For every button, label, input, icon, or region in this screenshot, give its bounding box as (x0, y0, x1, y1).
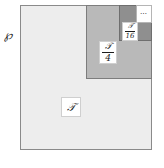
label-t4-denominator: 4 (105, 54, 111, 63)
label-chip-t-over-4: 𝒯 4 (99, 41, 117, 64)
label-chip-t: 𝒯 (61, 97, 81, 117)
label-chip-t-over-16: 𝒯 16 (122, 22, 138, 41)
label-t16-numerator: 𝒯 (128, 23, 133, 30)
label-t16-denominator: 16 (126, 33, 135, 40)
label-outer-p: ℘ (4, 28, 12, 42)
label-t-numerator: 𝒯 (67, 102, 75, 113)
label-t4-numerator: 𝒯 (105, 42, 112, 51)
figure-canvas: ⋯ 𝒯 𝒯 4 𝒯 16 ℘ (0, 0, 164, 168)
ellipsis-icon: ⋯ (140, 11, 148, 18)
region-ellipsis-tile: ⋯ (136, 5, 152, 23)
